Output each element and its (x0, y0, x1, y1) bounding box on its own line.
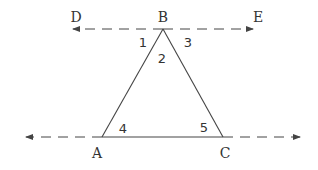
side-ab (102, 29, 163, 137)
point-label-d: D (70, 9, 81, 25)
angle-label-1: 1 (139, 35, 147, 50)
angle-label-5: 5 (200, 120, 208, 135)
point-label-c: C (220, 145, 231, 161)
angle-label-3: 3 (184, 35, 192, 50)
point-label-b: B (158, 9, 168, 25)
point-label-a: A (91, 145, 103, 161)
side-bc (163, 29, 223, 137)
triangle-parallel-line-diagram: D B E A C 1 2 3 4 5 (0, 0, 318, 170)
angle-label-4: 4 (119, 121, 127, 136)
point-label-e: E (253, 9, 263, 25)
angle-label-2: 2 (158, 51, 166, 66)
